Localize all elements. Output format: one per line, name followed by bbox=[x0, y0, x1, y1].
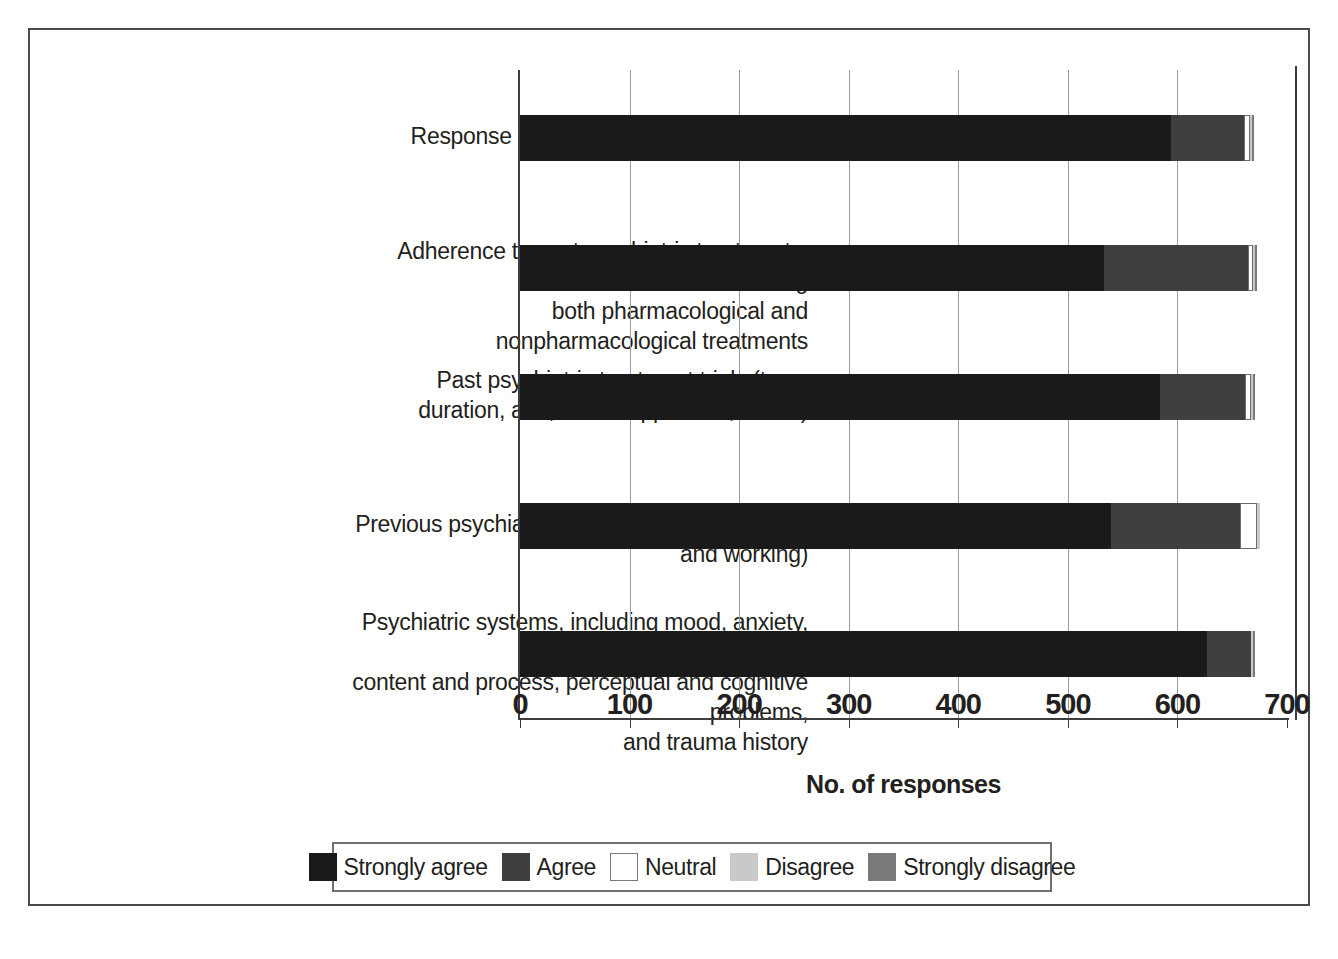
legend-swatch-neutral bbox=[610, 853, 638, 881]
x-axis-title: No. of responses bbox=[520, 770, 1287, 799]
x-tick-label: 100 bbox=[607, 688, 652, 721]
bar-segment-disagree bbox=[1257, 503, 1259, 549]
x-tick-label: 400 bbox=[936, 688, 981, 721]
bar-segment-agree bbox=[1171, 115, 1244, 161]
bar-segment-strongly-disagree bbox=[1253, 374, 1255, 420]
x-tick-label: 700 bbox=[1264, 688, 1309, 721]
legend-item[interactable]: Strongly disagree bbox=[868, 853, 1075, 881]
legend-label: Disagree bbox=[765, 854, 854, 881]
legend-label: Neutral bbox=[645, 854, 716, 881]
legend-item[interactable]: Disagree bbox=[730, 853, 854, 881]
bar-segment-strongly-agree bbox=[520, 245, 1104, 291]
bar-segment-strongly-agree bbox=[520, 503, 1111, 549]
x-tick-label: 200 bbox=[716, 688, 761, 721]
bar-segment-strongly-disagree bbox=[1252, 115, 1254, 161]
bar-segment-strongly-disagree bbox=[1255, 245, 1257, 291]
legend-swatch-agree bbox=[502, 853, 530, 881]
x-tick-label: 600 bbox=[1155, 688, 1200, 721]
bar-segment-agree bbox=[1104, 245, 1248, 291]
legend-item[interactable]: Neutral bbox=[610, 853, 716, 881]
bar-segment-strongly-agree bbox=[520, 374, 1160, 420]
chart-legend: Strongly agreeAgreeNeutralDisagreeStrong… bbox=[332, 842, 1052, 892]
figure-frame: Response to past psychiatric treatmentsA… bbox=[28, 28, 1310, 906]
x-tick-label: 300 bbox=[826, 688, 871, 721]
plot-area bbox=[520, 70, 1287, 718]
x-tick-label: 0 bbox=[512, 688, 527, 721]
bar-segment-strongly-agree bbox=[520, 115, 1171, 161]
legend-label: Strongly disagree bbox=[903, 854, 1075, 881]
legend-swatch-strongly-agree bbox=[309, 853, 337, 881]
legend-label: Strongly agree bbox=[344, 854, 488, 881]
bar-segment-strongly-disagree bbox=[1253, 631, 1255, 677]
legend-item[interactable]: Agree bbox=[502, 853, 596, 881]
category-label-line: and trauma history bbox=[348, 727, 808, 757]
plot-right-border bbox=[1295, 66, 1297, 720]
legend-item[interactable]: Strongly agree bbox=[309, 853, 488, 881]
bar-segment-agree bbox=[1207, 631, 1251, 677]
legend-swatch-disagree bbox=[730, 853, 758, 881]
legend-swatch-strongly-disagree bbox=[868, 853, 896, 881]
bar-segment-agree bbox=[1111, 503, 1240, 549]
bar-segment-strongly-agree bbox=[520, 631, 1207, 677]
bar-segment-agree bbox=[1160, 374, 1245, 420]
x-tick-label: 500 bbox=[1045, 688, 1090, 721]
legend-label: Agree bbox=[537, 854, 596, 881]
bar-segment-neutral bbox=[1240, 503, 1258, 549]
